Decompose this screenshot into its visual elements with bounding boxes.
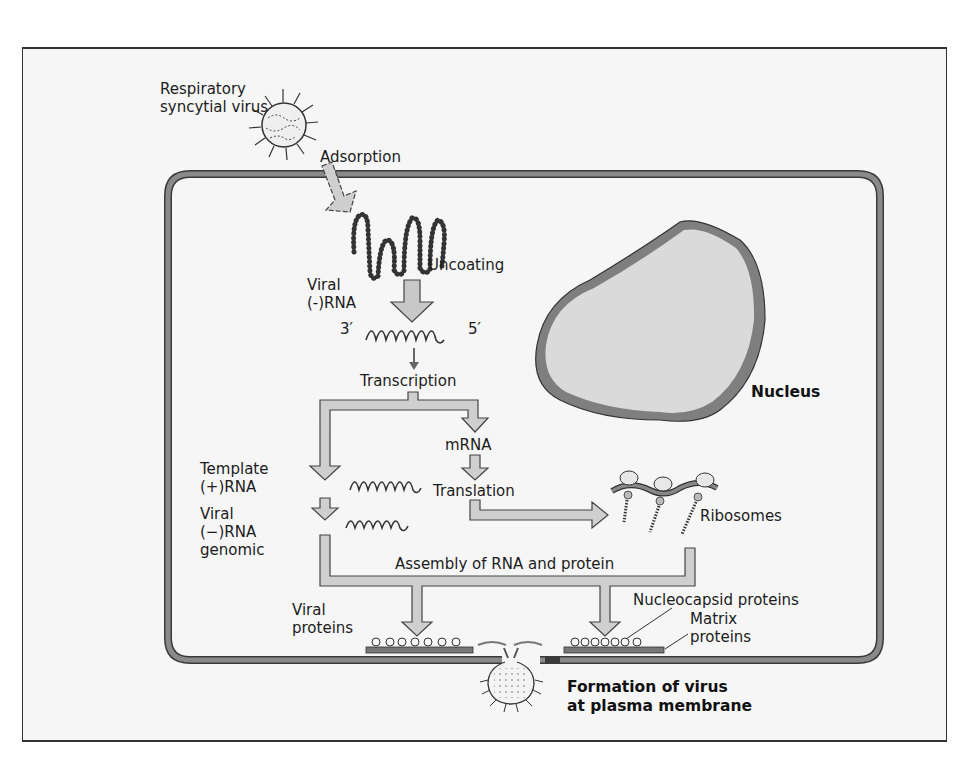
uncoating-arrow-icon xyxy=(391,280,433,322)
mrna-arrow-icon xyxy=(462,455,488,480)
template-rna-label-line1: Template xyxy=(200,460,268,478)
formation-label-line2: at plasma membrane xyxy=(567,697,752,715)
nucleocapsid-proteins-label: Nucleocapsid proteins xyxy=(633,591,799,609)
matrix-proteins-label-line2: proteins xyxy=(690,628,751,646)
matrix-proteins-label-line1: Matrix xyxy=(690,610,737,628)
viral-rna-helix-icon xyxy=(366,331,444,343)
mrna-label: mRNA xyxy=(445,436,492,454)
three-prime-label: 3′ xyxy=(340,320,353,338)
nucleocapsid-matrix-cluster-icon xyxy=(564,608,688,653)
nucleus-icon xyxy=(536,221,765,421)
genomic-rna-helix-icon xyxy=(346,521,408,531)
genomic-rna-label-line3: genomic xyxy=(200,541,264,559)
viral-proteins-label-line2: proteins xyxy=(292,619,353,637)
nucleus-label: Nucleus xyxy=(751,383,820,401)
virus-label-line2: syncytial virus xyxy=(160,98,268,116)
template-rna-label-line2: (+)RNA xyxy=(200,478,256,496)
template-rna-helix-icon xyxy=(350,482,421,493)
translation-label: Translation xyxy=(433,482,515,500)
clipped-caption-strip xyxy=(0,762,971,777)
formation-label-line1: Formation of virus xyxy=(567,678,728,696)
transcription-label: Transcription xyxy=(360,372,456,390)
genomic-rna-label-line2: (−)RNA xyxy=(200,523,256,541)
translation-arrow-icon xyxy=(470,500,608,528)
transcription-arrow-icon xyxy=(409,348,419,370)
assembly-pipe xyxy=(320,535,695,636)
virus-label-line1: Respiratory xyxy=(160,80,246,98)
assembly-label: Assembly of RNA and protein xyxy=(395,555,614,573)
adsorption-label: Adsorption xyxy=(320,148,401,166)
five-prime-label: 5′ xyxy=(468,320,481,338)
viral-rna-label-line1: Viral xyxy=(307,276,341,294)
replication-arrow-icon xyxy=(312,498,338,520)
ribosomes-label: Ribosomes xyxy=(700,507,782,525)
viral-proteins-cluster-icon xyxy=(366,638,473,653)
uncoating-label: Uncoating xyxy=(428,256,504,274)
rsv-replication-diagram xyxy=(0,0,971,777)
viral-proteins-label-line1: Viral xyxy=(292,601,326,619)
adsorption-arrow-icon xyxy=(322,162,356,212)
viral-rna-label-line2: (-)RNA xyxy=(307,294,356,312)
cell-membrane xyxy=(168,174,880,660)
genomic-rna-label-line1: Viral xyxy=(200,505,234,523)
budding-virus-icon xyxy=(478,642,543,712)
